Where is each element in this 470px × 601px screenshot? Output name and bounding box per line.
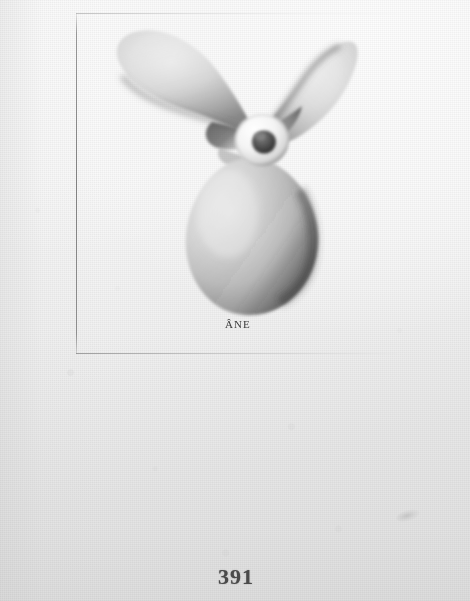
plate-rule-left [76, 13, 77, 354]
plate-rule-top [76, 13, 400, 14]
propeller-illustration [100, 18, 360, 328]
plate-caption: ÂNE [0, 318, 470, 330]
propeller-hub [235, 114, 289, 166]
lower-blade-group [186, 158, 318, 315]
upper-left-blade-group [117, 30, 254, 136]
scanned-page: ÂNE 391 [0, 0, 470, 601]
page-number: 391 [0, 564, 470, 590]
plate-rule-bottom [76, 353, 398, 354]
